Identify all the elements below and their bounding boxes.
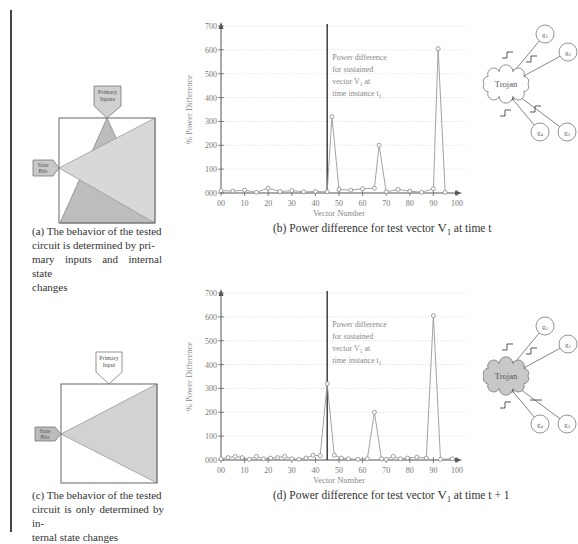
caption-line: (c) The behavior of the tested (32, 488, 164, 502)
x-tick-label: 100 (451, 466, 463, 475)
y-tick-label: 400 (205, 94, 217, 103)
x-tick-label: 80 (406, 199, 414, 208)
primary-input-label-2: Input (103, 362, 116, 368)
data-point (365, 457, 369, 461)
annotation-line: Power difference (332, 53, 387, 62)
x-tick-label: 20 (264, 466, 272, 475)
data-point (290, 457, 294, 461)
x-tick-label: 00 (217, 466, 225, 475)
chart-b-caption: (b) Power difference for test vector V1 … (273, 220, 492, 237)
x-tick-label: 00 (217, 199, 225, 208)
annotation-line: for sustained (332, 332, 373, 341)
y-tick-label: 600 (205, 313, 217, 322)
gate-arrow (516, 386, 560, 419)
y-tick-label: 300 (205, 384, 217, 393)
x-tick-label: 20 (264, 199, 272, 208)
data-point (278, 190, 282, 194)
y-axis-arrow-icon (219, 289, 224, 296)
data-point (384, 190, 388, 194)
data-point (240, 456, 244, 460)
caption-line: circuit is determined by pri- (32, 238, 162, 252)
x-tick-label: 30 (288, 199, 296, 208)
data-point (318, 454, 322, 458)
data-point (231, 189, 235, 193)
data-point (361, 187, 365, 191)
data-point (408, 189, 412, 193)
data-point (356, 457, 360, 461)
data-point (219, 457, 223, 461)
data-point (219, 189, 223, 193)
y-tick-label: 300 (205, 117, 217, 126)
x-axis-arrow-icon (455, 191, 462, 196)
data-point (283, 454, 287, 458)
state-bits-cone (61, 384, 157, 483)
y-axis-label: % Power Difference (184, 342, 194, 411)
y-tick-label: 200 (205, 141, 217, 150)
signal-transition-icon (502, 344, 513, 350)
caption-vector: V (438, 220, 447, 235)
trojan-label: Trojan (495, 79, 518, 89)
annotation-line: vector V1 at (332, 77, 371, 87)
panel-c-caption: (c) The behavior of the tested circuit i… (32, 488, 164, 544)
gate-arrow (520, 348, 560, 370)
data-point (372, 186, 376, 190)
state-bits-label-2: Bits (39, 168, 48, 174)
data-point (346, 457, 350, 461)
data-point (290, 189, 294, 193)
annotation-line: for sustained (332, 65, 373, 74)
data-point (243, 188, 247, 192)
x-tick-label: 70 (382, 199, 390, 208)
data-point (313, 190, 317, 194)
data-point (266, 186, 270, 190)
x-tick-label: 60 (359, 466, 367, 475)
data-point (450, 457, 454, 461)
data-point (247, 457, 251, 461)
data-point (415, 455, 419, 459)
primary-input-label: Primary (99, 355, 118, 361)
data-point (391, 454, 395, 458)
data-point (424, 456, 428, 460)
y-tick-label: 200 (205, 408, 217, 417)
data-point (349, 188, 353, 192)
data-point (325, 382, 329, 386)
gate-arrow (510, 96, 534, 125)
caption-suffix: at time t (451, 222, 492, 234)
data-point (431, 314, 435, 318)
data-point (431, 187, 435, 191)
y-axis-label: % Power Difference (184, 75, 194, 144)
x-tick-label: 10 (241, 466, 249, 475)
data-point (304, 456, 308, 460)
x-tick-label: 60 (359, 199, 367, 208)
gate-arrow (516, 94, 560, 127)
x-tick-label: 30 (288, 466, 296, 475)
x-tick-label: 100 (451, 199, 463, 208)
x-tick-label: 40 (311, 466, 319, 475)
data-point (302, 190, 306, 194)
data-point (269, 456, 273, 460)
data-point (297, 457, 301, 461)
data-point (261, 457, 265, 461)
primary-inputs-label: Primary (98, 89, 117, 95)
caption-line: circuit is only determined by in- (32, 502, 164, 530)
caption-vector: V (438, 487, 447, 502)
signal-transition-icon (502, 52, 513, 58)
trojan-diagram-bottom: g1g2g3g4Trojan (470, 300, 578, 460)
data-point (254, 454, 258, 458)
state-bits-label-2: Bits (41, 434, 50, 440)
y-axis-arrow-icon (219, 22, 224, 29)
trojan-label: Trojan (495, 371, 518, 381)
signal-transition-icon (500, 110, 511, 116)
data-point (384, 457, 388, 461)
caption-text: (b) Power difference for test vector (273, 222, 438, 234)
x-tick-label: 80 (406, 466, 414, 475)
gate-arrow (510, 388, 534, 417)
data-point (396, 187, 400, 191)
x-tick-label: 90 (429, 466, 437, 475)
caption-line: ternal state changes (32, 530, 164, 544)
y-tick-label: 700 (205, 22, 217, 31)
y-tick-label: 000 (205, 189, 217, 198)
data-point (398, 457, 402, 461)
data-point (325, 190, 329, 194)
annotation-line: time instance t1 (332, 89, 382, 99)
data-point (438, 457, 442, 461)
